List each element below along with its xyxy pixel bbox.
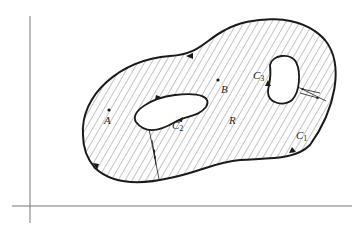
label-region-r: R (229, 115, 236, 126)
label-c3: C3 (253, 70, 264, 83)
label-c1-sub: 1 (303, 134, 307, 143)
label-c2: C2 (172, 120, 183, 133)
label-point-a: A (104, 115, 111, 126)
curve-c3 (268, 56, 299, 104)
label-c2-sub: 2 (179, 124, 183, 133)
region-r (83, 19, 336, 182)
label-c1: C1 (296, 130, 307, 143)
point-a (107, 108, 110, 111)
label-point-b: B (221, 84, 228, 95)
point-b (216, 78, 219, 81)
label-c3-sub: 3 (260, 74, 264, 83)
diagram-canvas (0, 0, 362, 234)
